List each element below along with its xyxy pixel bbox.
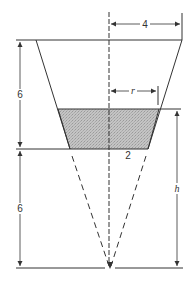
left-wall xyxy=(36,40,70,149)
cone-extension-right xyxy=(111,156,146,266)
frustum-diagram: 4 r 2 6 6 h xyxy=(0,0,189,282)
cone-extension-left xyxy=(72,156,109,266)
lower-height-label: 6 xyxy=(17,203,23,214)
water-radius-label: r xyxy=(131,85,135,96)
top-radius-label: 4 xyxy=(142,19,148,30)
water-depth-label: h xyxy=(175,183,180,194)
bottom-radius-label: 2 xyxy=(125,150,131,161)
apex-marker xyxy=(107,262,113,269)
upper-height-label: 6 xyxy=(17,89,23,100)
